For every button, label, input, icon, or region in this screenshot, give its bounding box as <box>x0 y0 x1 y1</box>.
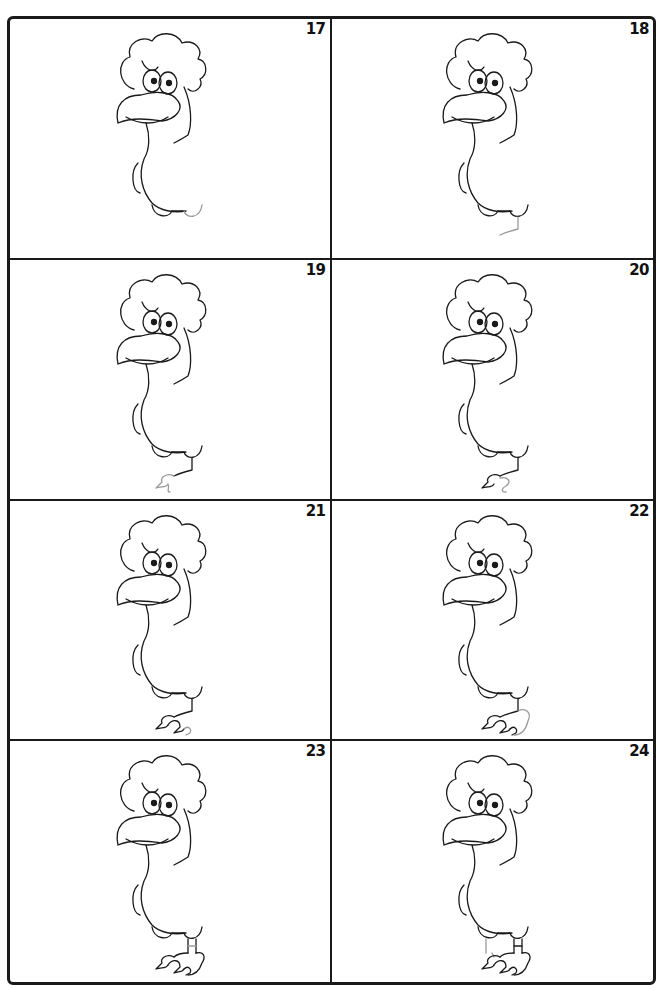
chicken-drawing-icon <box>422 747 552 977</box>
step-panel-18: 18 <box>332 19 654 260</box>
step-panel-21: 21 <box>10 501 332 742</box>
step-number: 20 <box>629 261 649 279</box>
step-number: 22 <box>629 502 649 520</box>
step-number: 24 <box>629 742 649 760</box>
step-panel-19: 19 <box>10 260 332 501</box>
chicken-drawing-icon <box>96 507 226 737</box>
chicken-drawing-icon <box>96 25 226 255</box>
chicken-drawing-icon <box>422 25 552 255</box>
chicken-drawing-icon <box>422 266 552 496</box>
chicken-drawing-icon <box>96 747 226 977</box>
chicken-drawing-icon <box>422 507 552 737</box>
step-number: 17 <box>306 20 326 38</box>
step-panel-17: 17 <box>10 19 332 260</box>
step-panel-22: 22 <box>332 501 654 742</box>
drawing-sheet: 17 <box>7 16 656 985</box>
step-number: 21 <box>306 502 326 520</box>
step-panel-23: 23 <box>10 741 332 982</box>
step-number: 23 <box>306 742 326 760</box>
chicken-drawing-icon <box>96 266 226 496</box>
step-number: 18 <box>629 20 649 38</box>
step-panel-24: 24 <box>332 741 654 982</box>
panel-grid: 17 <box>10 19 653 982</box>
step-number: 19 <box>306 261 326 279</box>
step-panel-20: 20 <box>332 260 654 501</box>
